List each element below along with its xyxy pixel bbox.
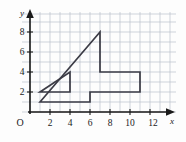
origin-label: O xyxy=(16,117,23,128)
y-axis-label: y xyxy=(19,8,24,18)
x-tick-label-2: 2 xyxy=(48,118,53,128)
y-tick-label-8: 8 xyxy=(20,27,25,37)
y-tick-label-4: 4 xyxy=(20,67,25,77)
y-tick-label-6: 6 xyxy=(20,47,25,57)
y-tick-label-2: 2 xyxy=(20,87,25,97)
x-tick-label-8: 8 xyxy=(108,118,113,128)
coordinate-plane-figure: O x y 2 4 6 8 10 12 2 4 6 8 xyxy=(0,0,186,142)
x-axis-label: x xyxy=(169,116,174,126)
x-tick-label-10: 10 xyxy=(125,118,135,128)
x-tick-label-4: 4 xyxy=(68,118,73,128)
y-axis xyxy=(26,9,34,114)
x-tick-label-6: 6 xyxy=(88,118,93,128)
x-tick-label-12: 12 xyxy=(148,118,158,128)
graph-svg: O x y 2 4 6 8 10 12 2 4 6 8 xyxy=(0,0,186,142)
